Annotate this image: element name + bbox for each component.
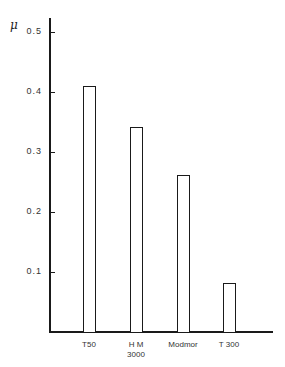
y-tick-label: 0.3 xyxy=(14,146,42,156)
x-label-line1: H M xyxy=(114,340,158,350)
y-tick-0.4 xyxy=(49,92,55,93)
x-label-line1: Modmor xyxy=(161,340,205,350)
bar-t50 xyxy=(83,86,96,332)
y-tick-0.2 xyxy=(49,212,55,213)
y-tick-0.5 xyxy=(49,32,55,33)
y-tick-label: 0.5 xyxy=(14,26,42,36)
bar-hm-3000 xyxy=(130,127,143,332)
y-axis xyxy=(49,18,51,333)
bar-chart: μ 0.5 0.4 0.3 0.2 0.1 T50 H M 3000 Modmo… xyxy=(0,0,285,367)
x-tick-label: H M 3000 xyxy=(114,340,158,360)
x-tick-label: T50 xyxy=(67,340,111,350)
x-label-line1: T 300 xyxy=(207,340,251,350)
y-tick-label: 0.4 xyxy=(14,86,42,96)
bar-t-300 xyxy=(223,283,236,332)
y-tick-0.3 xyxy=(49,152,55,153)
x-label-line2: 3000 xyxy=(114,350,158,360)
x-label-line1: T50 xyxy=(67,340,111,350)
y-tick-label: 0.1 xyxy=(14,266,42,276)
bar-modmor xyxy=(177,175,190,332)
x-tick-label: T 300 xyxy=(207,340,251,350)
x-tick-label: Modmor xyxy=(161,340,205,350)
y-tick-0.1 xyxy=(49,272,55,273)
y-tick-label: 0.2 xyxy=(14,206,42,216)
